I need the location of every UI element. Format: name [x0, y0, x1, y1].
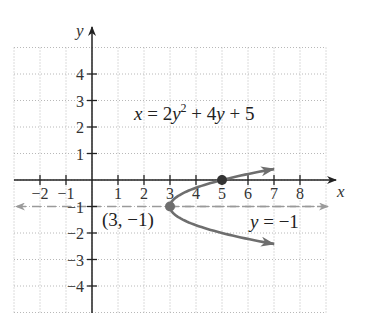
eq-part1: = 2: [142, 103, 172, 124]
y-tick-label: −3: [67, 252, 84, 269]
line-y: y: [248, 211, 259, 232]
y-tick-label: −1: [67, 199, 84, 216]
parabola-upper-arrow: [267, 169, 274, 170]
vertex-point: [165, 202, 175, 212]
line-rest: = −1: [258, 211, 298, 232]
x-tick-label: 8: [296, 185, 304, 202]
eq-y1: y: [170, 103, 181, 124]
equation-label: x = 2y2 + 4y + 5: [133, 101, 254, 124]
y-tick-label: 3: [76, 93, 84, 110]
x-tick-label: 5: [218, 185, 226, 202]
x-tick-label: 1: [114, 185, 122, 202]
y-tick-label: 2: [76, 119, 84, 136]
eq-y2: y: [214, 103, 225, 124]
eq-part2: + 4: [187, 103, 217, 124]
parabola-chart: −2−1123456784321−1−2−3−4 x y x = 2y2 + 4…: [0, 0, 369, 333]
x-tick-label: 6: [244, 185, 252, 202]
parabola-lower-arrow: [267, 243, 274, 244]
x-intercept-point: [217, 175, 227, 185]
y-tick-label: −2: [67, 225, 84, 242]
y-tick-label: −4: [67, 278, 84, 295]
x-axis-label: x: [336, 182, 345, 201]
y-tick-label: 4: [76, 66, 84, 83]
x-tick-label: 7: [270, 185, 278, 202]
y-tick-label: 1: [76, 146, 84, 163]
y-axis-label: y: [74, 21, 84, 40]
x-tick-label: −2: [31, 185, 48, 202]
eq-part3: + 5: [225, 103, 255, 124]
x-tick-label: 2: [140, 185, 148, 202]
vertex-label: (3, −1): [102, 209, 154, 231]
symmetry-label: y = −1: [248, 211, 299, 232]
